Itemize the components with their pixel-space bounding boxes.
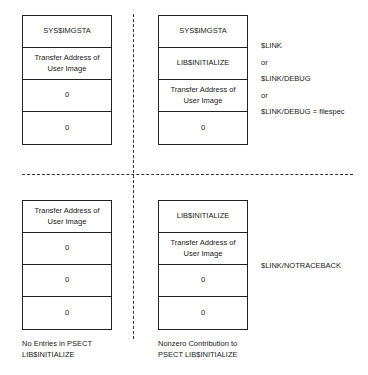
stack-bottom-left: Transfer Address of User Image 0 0 0 xyxy=(22,200,112,330)
cell: Transfer Address of User Image xyxy=(159,233,247,265)
stack-bottom-right: LIB$INITIALIZE Transfer Address of User … xyxy=(158,200,248,330)
cell: SYS$IMGSTA xyxy=(159,16,247,48)
cell: 0 xyxy=(23,233,111,265)
cell: LIB$INITIALIZE xyxy=(159,201,247,233)
stack-top-right: SYS$IMGSTA LIB$INITIALIZE Transfer Addre… xyxy=(158,15,248,145)
cell: 0 xyxy=(159,265,247,297)
command-link-notraceback: $LINK/NOTRACEBACK xyxy=(261,262,341,270)
cell: Transfer Address of User Image xyxy=(23,201,111,233)
command-or: or xyxy=(261,92,268,100)
caption-right: Nonzero Contribution to PSECT LIB$INITIA… xyxy=(158,339,237,360)
cell: 0 xyxy=(159,112,247,144)
cell: 0 xyxy=(23,297,111,329)
cell: 0 xyxy=(23,265,111,297)
command-link-debug: $LINK/DEBUG xyxy=(261,75,311,83)
cell: 0 xyxy=(159,297,247,329)
cell: SYS$IMGSTA xyxy=(23,16,111,48)
cell: 0 xyxy=(23,80,111,112)
stack-top-left: SYS$IMGSTA Transfer Address of User Imag… xyxy=(22,15,112,145)
vertical-divider xyxy=(133,14,134,339)
horizontal-divider xyxy=(22,174,353,175)
caption-left: No Entries in PSECT LIB$INITIALIZE xyxy=(22,339,92,360)
cell: LIB$INITIALIZE xyxy=(159,48,247,80)
cell: Transfer Address of User Image xyxy=(23,48,111,80)
command-link: $LINK xyxy=(261,42,282,50)
cell: 0 xyxy=(23,112,111,144)
command-link-debug-filespec: $LINK/DEBUG = filespec xyxy=(261,108,345,116)
command-or: or xyxy=(261,59,268,67)
cell: Transfer Address of User Image xyxy=(159,80,247,112)
